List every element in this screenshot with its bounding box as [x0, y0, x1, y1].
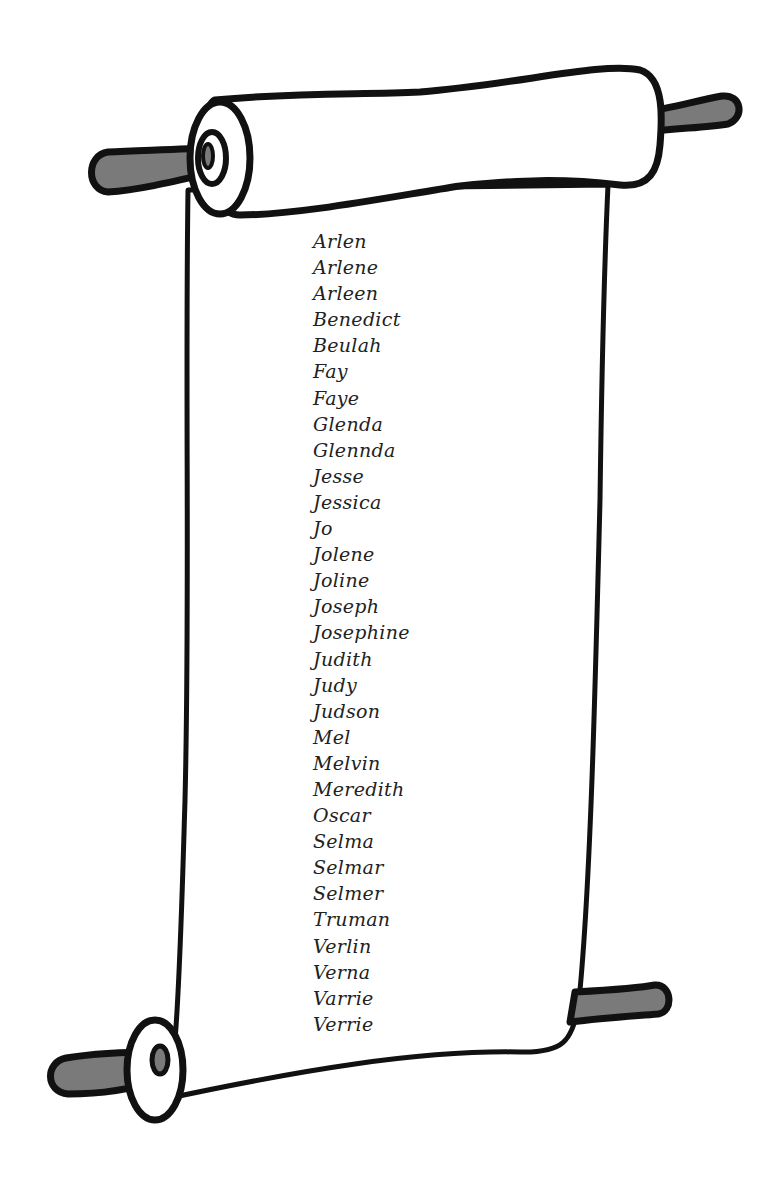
- bottom-roll-core: [152, 1046, 168, 1074]
- name-item: Glenda: [313, 411, 410, 437]
- name-item: Beulah: [313, 332, 410, 358]
- name-item: Varrie: [313, 985, 410, 1011]
- name-item: Verlin: [313, 933, 410, 959]
- name-item: Arlen: [313, 228, 410, 254]
- name-item: Meredith: [313, 776, 410, 802]
- name-item: Jessica: [313, 489, 410, 515]
- name-item: Arleen: [313, 280, 410, 306]
- name-item: Mel: [313, 724, 410, 750]
- name-list: Arlen Arlene Arleen Benedict Beulah Fay …: [313, 228, 410, 1037]
- name-item: Judson: [313, 698, 410, 724]
- name-item: Arlene: [313, 254, 410, 280]
- name-item: Oscar: [313, 802, 410, 828]
- name-item: Verrie: [313, 1011, 410, 1037]
- name-item: Jolene: [313, 541, 410, 567]
- name-item: Jo: [313, 515, 410, 541]
- name-item: Verna: [313, 959, 410, 985]
- name-item: Joseph: [313, 593, 410, 619]
- name-item: Truman: [313, 906, 410, 932]
- name-item: Josephine: [313, 619, 410, 645]
- name-item: Jesse: [313, 463, 410, 489]
- top-roll-core: [203, 144, 213, 168]
- name-item: Judith: [313, 646, 410, 672]
- name-item: Fay: [313, 358, 410, 384]
- bottom-right-handle: [570, 985, 669, 1022]
- name-item: Selmar: [313, 854, 410, 880]
- name-item: Benedict: [313, 306, 410, 332]
- name-item: Judy: [313, 672, 410, 698]
- name-item: Glennda: [313, 437, 410, 463]
- name-item: Melvin: [313, 750, 410, 776]
- name-item: Joline: [313, 567, 410, 593]
- name-item: Faye: [313, 385, 410, 411]
- name-item: Selmer: [313, 880, 410, 906]
- name-item: Selma: [313, 828, 410, 854]
